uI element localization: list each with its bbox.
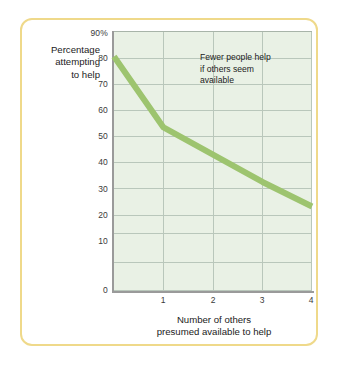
x-tick-label: 3: [250, 296, 274, 305]
y-tick-label: 90%: [62, 29, 108, 38]
y-tick-label: 0: [62, 286, 108, 295]
y-axis-title-line: Percentage: [14, 44, 100, 56]
x-axis-title: Number of others presumed available to h…: [108, 314, 320, 339]
chart-annotation: Fewer people help if others seem availab…: [200, 52, 308, 87]
y-tick-label: 60: [62, 106, 108, 115]
figure-root: 90% 80 70 60 50 40 30 20 10 0 1 2 3 4 Pe…: [0, 0, 338, 366]
chart-annotation-line: if others seem: [200, 64, 308, 76]
y-tick-label: 30: [62, 185, 108, 194]
x-axis-title-line: presumed available to help: [108, 326, 320, 338]
x-tick-label: 2: [201, 296, 225, 305]
x-axis-line: [112, 291, 314, 293]
y-axis-title: Percentage attempting to help: [14, 44, 100, 81]
chart-annotation-line: available: [200, 75, 308, 87]
x-tick-label: 4: [299, 296, 323, 305]
y-tick-label: 40: [62, 158, 108, 167]
y-tick-label: 50: [62, 132, 108, 141]
chart-annotation-line: Fewer people help: [200, 52, 308, 64]
y-tick-label: 20: [62, 211, 108, 220]
y-axis-title-line: to help: [14, 69, 100, 81]
x-axis-title-line: Number of others: [108, 314, 320, 326]
y-tick-label: 70: [62, 80, 108, 89]
y-tick-label: 10: [62, 237, 108, 246]
line-chart: 90% 80 70 60 50 40 30 20 10 0 1 2 3 4 Pe…: [0, 0, 338, 366]
y-axis-title-line: attempting: [14, 56, 100, 68]
x-tick-label: 1: [151, 296, 175, 305]
